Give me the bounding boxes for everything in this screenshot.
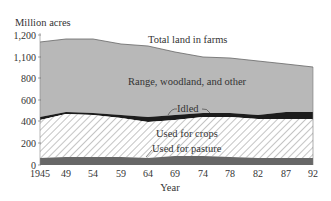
y-tick-label: 1,200 (14, 30, 37, 41)
x-tick-label: 54 (88, 168, 98, 179)
y-tick-label: 800 (21, 73, 36, 84)
x-tick-label: 74 (198, 168, 208, 179)
x-tick-label: 69 (170, 168, 180, 179)
y-tick-label: 1,100 (14, 52, 37, 63)
idled-label: Idled (177, 103, 199, 114)
x-tick-label: 1945 (30, 168, 50, 179)
y-axis: 02004006008001,1001,200 (14, 30, 42, 171)
y-axis-label: Million acres (15, 17, 71, 28)
x-axis: 194549545964697478828792 (30, 168, 318, 179)
range-woodland-label: Range, woodland, and other (128, 76, 247, 87)
x-tick-label: 92 (308, 168, 318, 179)
y-tick-label: 600 (21, 95, 36, 106)
y-tick-label: 200 (21, 138, 36, 149)
x-tick-label: 49 (61, 168, 71, 179)
x-tick-label: 78 (225, 168, 235, 179)
pasture-label: Used for pasture (152, 143, 222, 154)
crops-label: Used for crops (156, 128, 218, 139)
x-tick-label: 82 (253, 168, 263, 179)
chart: 02004006008001,1001,200 1945495459646974… (0, 0, 331, 201)
x-tick-label: 64 (143, 168, 153, 179)
x-tick-label: 87 (281, 168, 291, 179)
total-land-label: Total land in farms (148, 34, 227, 45)
x-axis-label: Year (160, 182, 180, 193)
x-tick-label: 59 (116, 168, 126, 179)
y-tick-label: 400 (21, 116, 36, 127)
